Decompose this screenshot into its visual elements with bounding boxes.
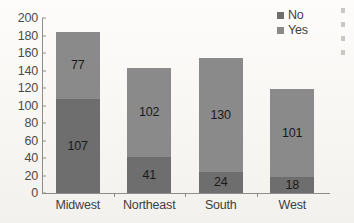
bar-value-label: 24 <box>214 176 228 189</box>
bar-stack: 10241 <box>127 68 171 193</box>
margin-text-line <box>341 8 345 13</box>
y-axis-tick-label: 200 <box>0 11 42 25</box>
plot-area: 77107102411302410118 <box>42 18 328 193</box>
margin-text-line <box>341 50 345 55</box>
bar-segment-no: 18 <box>270 177 314 193</box>
y-axis-tick-label: 160 <box>0 46 42 60</box>
y-axis-tick-label: 120 <box>0 81 42 95</box>
bar-segment-no: 41 <box>127 157 171 193</box>
bar-value-label: 102 <box>139 106 159 119</box>
y-axis-tick-label: 140 <box>0 64 42 78</box>
chart-legend: NoYes <box>277 9 308 37</box>
bar-value-label: 130 <box>211 109 231 122</box>
x-axis-tick-mark <box>185 193 186 197</box>
legend-swatch-icon <box>277 27 284 34</box>
bar-segment-yes: 101 <box>270 89 314 177</box>
cropped-margin-text <box>341 8 354 55</box>
margin-text-line <box>341 22 345 27</box>
bar-segment-yes: 130 <box>199 58 243 172</box>
y-axis-tick-label: 180 <box>0 29 42 43</box>
bar-segment-no: 107 <box>56 99 100 193</box>
bar-value-label: 18 <box>285 179 299 192</box>
y-axis-tick-label: 40 <box>0 151 42 165</box>
x-axis-label-south: South <box>185 198 257 212</box>
bar-segment-yes: 102 <box>127 68 171 157</box>
legend-label: No <box>288 9 304 22</box>
x-axis-tick-mark <box>114 193 115 197</box>
y-axis-tick-label: 100 <box>0 99 42 113</box>
x-axis-line <box>42 193 330 194</box>
y-axis-tick-label: 60 <box>0 134 42 148</box>
y-axis-tick-label: 20 <box>0 169 42 183</box>
x-axis-tick-mark <box>257 193 258 197</box>
bar-value-label: 41 <box>142 169 156 182</box>
bar-value-label: 101 <box>282 127 302 140</box>
bar-stack: 10118 <box>270 89 314 193</box>
x-axis-label-west: West <box>257 198 329 212</box>
chart-figure: 020406080100120140160180200 771071024113… <box>0 0 354 223</box>
legend-item-yes[interactable]: Yes <box>277 24 308 37</box>
bar-segment-no: 24 <box>199 172 243 193</box>
y-axis-tick-label: 0 <box>0 186 42 200</box>
bar-stack: 13024 <box>199 58 243 193</box>
legend-item-no[interactable]: No <box>277 9 308 22</box>
x-axis-label-midwest: Midwest <box>42 198 114 212</box>
y-axis-tick-label: 80 <box>0 116 42 130</box>
bar-segment-yes: 77 <box>56 32 100 99</box>
bar-stack: 77107 <box>56 32 100 193</box>
margin-text-line <box>341 36 345 41</box>
x-axis-label-northeast: Northeast <box>114 198 186 212</box>
legend-label: Yes <box>288 24 308 37</box>
bar-value-label: 107 <box>68 140 88 153</box>
legend-swatch-icon <box>277 12 284 19</box>
bar-value-label: 77 <box>71 59 85 72</box>
